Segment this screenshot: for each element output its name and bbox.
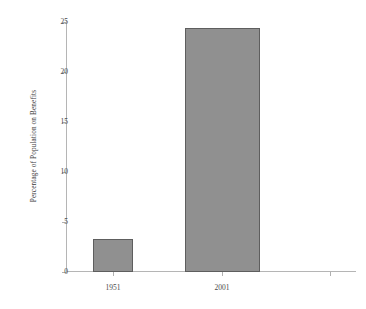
y-tick-label: 10 [42, 168, 68, 176]
x-tick-label-2001: 2001 [187, 284, 257, 292]
bar-chart: Percentage of Population on Benefits 051… [0, 0, 366, 309]
y-tick-label: 20 [42, 68, 68, 76]
x-tick-label-1951: 1951 [78, 284, 148, 292]
y-tick-label: 5 [42, 218, 68, 226]
y-tick-label: 0 [42, 268, 68, 276]
y-axis-title: Percentage of Population on Benefits [30, 46, 38, 246]
bar-1951 [93, 239, 133, 272]
y-tick-label: 25 [42, 18, 68, 26]
x-tick-mark-end [330, 272, 331, 276]
x-tick-mark [113, 272, 114, 276]
y-tick-label: 15 [42, 118, 68, 126]
x-tick-mark [222, 272, 223, 276]
bar-2001 [185, 28, 260, 272]
y-axis-line [66, 20, 67, 272]
